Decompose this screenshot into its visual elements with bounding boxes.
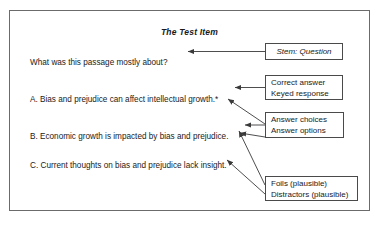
callout-foils-line-1: Foils (plausible) [271, 179, 352, 190]
callout-choices-line-1: Answer choices [271, 115, 338, 126]
callout-foils: Foils (plausible) Distractors (plausible… [265, 176, 358, 201]
figure-canvas: The Test Item What was this passage most… [0, 0, 382, 225]
callout-stem-line-1: Stem: Question [271, 47, 337, 58]
test-item-option-c: C. Current thoughts on bias and prejudic… [30, 161, 227, 171]
test-item-stem: What was this passage mostly about? [30, 58, 167, 68]
test-item-option-a: A. Bias and prejudice can affect intelle… [30, 95, 218, 105]
figure-title: The Test Item [10, 27, 369, 37]
callout-correct-answer: Correct answer Keyed response [265, 75, 343, 100]
callout-choices-line-2: Answer options [271, 126, 338, 137]
callout-foils-line-2: Distractors (plausible) [271, 190, 352, 201]
callout-stem: Stem: Question [265, 43, 343, 60]
test-item-option-b: B. Economic growth is impacted by bias a… [30, 132, 228, 142]
callout-correct-line-1: Correct answer [271, 78, 337, 89]
callout-answer-choices: Answer choices Answer options [265, 112, 344, 138]
callout-correct-line-2: Keyed response [271, 89, 337, 100]
